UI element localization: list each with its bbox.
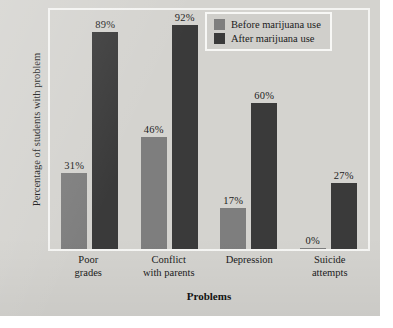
bar-before: 31%: [61, 10, 87, 249]
bar-value-label: 46%: [144, 124, 164, 135]
bar-after: 92%: [172, 10, 198, 249]
bar-rect: [172, 25, 198, 249]
chart-legend: Before marijuana useAfter marijuana use: [205, 12, 332, 51]
bar-group: 46%92%: [141, 10, 198, 249]
bar-value-label: 17%: [223, 195, 243, 206]
bar-value-label: 92%: [175, 12, 195, 23]
bar-value-label: 0%: [306, 235, 320, 246]
legend-item-before: Before marijuana use: [214, 19, 321, 30]
legend-swatch-after: [214, 33, 225, 44]
legend-label: After marijuana use: [231, 33, 314, 44]
bar-rect: [92, 32, 118, 249]
bar-rect: [251, 103, 277, 249]
bar-rect: [300, 248, 326, 249]
bar-value-label: 89%: [95, 19, 115, 30]
bar-value-label: 60%: [254, 90, 274, 101]
legend-item-after: After marijuana use: [214, 33, 321, 44]
legend-label: Before marijuana use: [231, 19, 321, 30]
legend-swatch-before: [214, 19, 225, 30]
bar-rect: [141, 137, 167, 249]
bar-rect: [220, 208, 246, 249]
bar-before: 46%: [141, 10, 167, 249]
x-tick-label: Poorgrades: [57, 254, 119, 288]
bar-after: 27%: [331, 10, 357, 249]
chart-figure: 31%89%46%92%17%60%0%27% Before marijuana…: [0, 0, 380, 316]
bar-rect: [61, 173, 87, 249]
x-axis-tick-labels: PoorgradesConflictwith parentsDepression…: [48, 254, 370, 288]
x-axis-title: Problems: [48, 290, 370, 302]
x-tick-label: Suicideattempts: [299, 254, 361, 288]
x-tick-label: Conflictwith parents: [138, 254, 200, 288]
bar-value-label: 27%: [334, 170, 354, 181]
bar-after: 89%: [92, 10, 118, 249]
bar-group: 31%89%: [61, 10, 118, 249]
x-tick-label: Depression: [218, 254, 280, 288]
bar-rect: [331, 183, 357, 249]
bar-value-label: 31%: [64, 160, 84, 171]
y-axis-label: Percentage of students with problem: [26, 8, 46, 251]
